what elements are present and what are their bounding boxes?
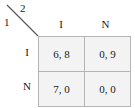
row-player-label: 1 <box>4 17 10 28</box>
payoff-table: 6, 8 0, 9 7, 0 0, 0 <box>38 36 131 107</box>
row-header-0: I <box>18 46 36 58</box>
column-player-label: 2 <box>20 3 26 14</box>
row-header-1: N <box>18 80 36 92</box>
column-header-0: I <box>39 17 83 31</box>
payoff-cell-1-0: 7, 0 <box>39 72 85 107</box>
matrix-corner-header: 2 1 <box>0 0 40 38</box>
table-row: 7, 0 0, 0 <box>39 72 131 107</box>
payoff-matrix-figure: 2 1 I N I N 6, 8 0, 9 7, 0 0, 0 <box>0 0 135 108</box>
table-row: 6, 8 0, 9 <box>39 37 131 72</box>
payoff-cell-1-1: 0, 0 <box>85 72 131 107</box>
payoff-cell-0-1: 0, 9 <box>85 37 131 72</box>
column-header-1: N <box>83 17 128 31</box>
payoff-cell-0-0: 6, 8 <box>39 37 85 72</box>
